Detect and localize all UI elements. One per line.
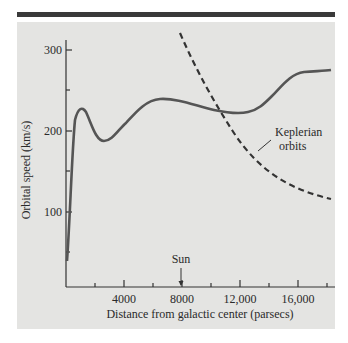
rotation-curve-line: [67, 70, 331, 261]
x-tick-label: 12,000: [224, 292, 257, 306]
sun-arrowhead-icon: [179, 281, 184, 286]
sun-label: Sun: [172, 252, 191, 266]
x-ticks: [95, 280, 327, 287]
x-axis-title: Distance from galactic center (parsecs): [106, 307, 293, 321]
keplerian-label: orbits: [279, 139, 307, 153]
y-axis-title: Orbital speed (km/s): [19, 121, 33, 220]
keplerian-leader-line: [258, 140, 271, 151]
y-tick-label: 200: [44, 124, 62, 138]
x-tick-label: 4000: [112, 292, 136, 306]
keplerian-curve-line: [180, 33, 331, 199]
x-tick-label: 16,000: [282, 292, 315, 306]
y-tick-label: 100: [44, 205, 62, 219]
keplerian-label: Keplerian: [275, 125, 322, 139]
rotation-curve-chart: 100 200 300 4000 8000 12,000 16,000 Dist…: [0, 0, 348, 343]
x-tick-label: 8000: [170, 292, 194, 306]
y-tick-label: 300: [44, 43, 62, 57]
